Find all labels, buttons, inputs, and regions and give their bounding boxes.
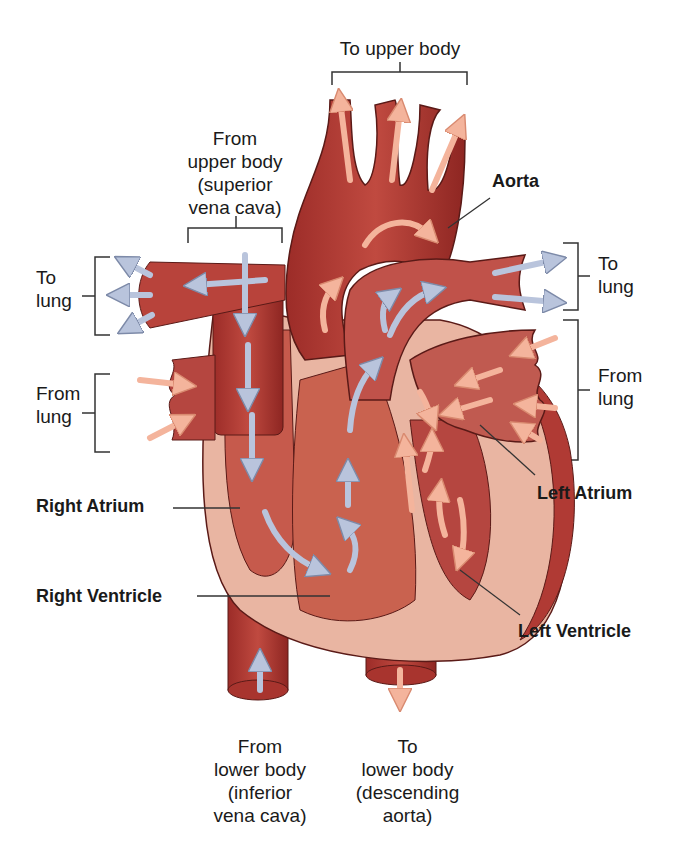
label-line: lower body: [200, 758, 320, 781]
label-line: To: [36, 266, 72, 289]
label-right-atrium: Right Atrium: [36, 495, 144, 518]
label-line: upper body: [180, 150, 290, 173]
label-line: lower body: [345, 758, 470, 781]
label-left-ventricle: Left Ventricle: [518, 620, 631, 643]
label-line: lung: [598, 275, 634, 298]
label-from-lung-right: From lung: [598, 364, 642, 410]
label-left-atrium: Left Atrium: [537, 482, 632, 505]
label-line: lung: [598, 387, 642, 410]
label-line: lung: [36, 405, 80, 428]
label-line: aorta): [345, 804, 470, 827]
label-line: To: [598, 252, 634, 275]
label-line: vena cava): [180, 196, 290, 219]
label-aorta: Aorta: [492, 170, 539, 193]
label-right-ventricle: Right Ventricle: [36, 585, 162, 608]
label-line: vena cava): [200, 804, 320, 827]
label-line: From: [180, 127, 290, 150]
label-from-upper-body: From upper body (superior vena cava): [180, 127, 290, 219]
label-from-lung-left: From lung: [36, 382, 80, 428]
label-line: To: [345, 735, 470, 758]
label-line: From: [598, 364, 642, 387]
label-line: lung: [36, 289, 72, 312]
label-to-upper-body: To upper body: [325, 37, 475, 60]
label-to-lung-right: To lung: [598, 252, 634, 298]
label-line: From: [200, 735, 320, 758]
label-line: From: [36, 382, 80, 405]
label-line: (inferior: [200, 781, 320, 804]
label-to-lung-left: To lung: [36, 266, 72, 312]
label-line: (descending: [345, 781, 470, 804]
label-from-lower-body: From lower body (inferior vena cava): [200, 735, 320, 827]
label-line: (superior: [180, 173, 290, 196]
label-to-lower-body: To lower body (descending aorta): [345, 735, 470, 827]
